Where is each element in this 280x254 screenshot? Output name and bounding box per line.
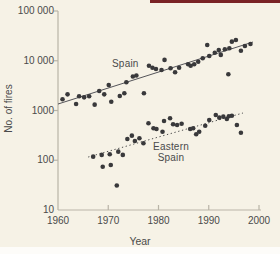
data-point-spain (118, 94, 123, 99)
data-point-spain (217, 48, 222, 53)
series-label-eastern-spain-line1: Eastern (145, 141, 197, 152)
data-point-eastern-spain (121, 153, 126, 158)
data-point-eastern-spain (197, 129, 202, 134)
trend-line-spain (58, 42, 253, 104)
y-tick-label-10: 10 (0, 204, 54, 215)
y-tick-label-100000: 100 000 (0, 5, 54, 16)
data-point-eastern-spain (168, 116, 173, 121)
data-point-eastern-spain (175, 123, 180, 128)
x-axis-title: Year (0, 235, 280, 247)
data-point-spain (97, 89, 102, 94)
y-tick-label-10000: 10 000 (0, 55, 54, 66)
data-point-eastern-spain (235, 123, 240, 128)
data-point-spain (200, 56, 205, 61)
data-point-eastern-spain (179, 121, 184, 126)
data-point-spain (109, 99, 114, 104)
x-tick-label-1990: 1990 (192, 215, 226, 226)
data-point-spain (142, 91, 147, 96)
data-point-eastern-spain (146, 121, 151, 126)
data-point-eastern-spain (171, 122, 176, 127)
data-point-eastern-spain (137, 136, 142, 141)
data-point-eastern-spain (239, 130, 244, 135)
data-point-eastern-spain (125, 137, 130, 142)
y-tick-label-1000: 1000 (0, 105, 54, 116)
x-tick-label-1960: 1960 (41, 215, 75, 226)
data-point-eastern-spain (207, 118, 212, 123)
data-point-spain (223, 47, 228, 52)
x-tick-label-1980: 1980 (142, 215, 176, 226)
data-point-spain (177, 65, 182, 70)
data-point-eastern-spain (230, 113, 235, 118)
data-point-eastern-spain (162, 119, 167, 124)
data-point-eastern-spain (108, 163, 113, 168)
data-point-eastern-spain (130, 133, 135, 138)
series-label-spain: Spain (112, 58, 139, 69)
data-point-spain (207, 54, 212, 59)
data-point-eastern-spain (107, 152, 112, 157)
x-tick-label-2000: 2000 (242, 215, 276, 226)
data-point-spain (87, 94, 92, 99)
data-point-spain (239, 48, 244, 53)
data-point-spain (162, 58, 167, 63)
data-point-spain (227, 46, 232, 51)
data-point-eastern-spain (154, 127, 159, 132)
data-point-eastern-spain (116, 149, 121, 154)
data-point-spain (243, 44, 248, 49)
data-point-spain (65, 92, 70, 97)
fires-scatter-chart: No. of fires Year Spain Eastern Spain 19… (0, 0, 280, 254)
data-point-spain (82, 95, 87, 100)
data-point-spain (77, 94, 82, 99)
data-point-spain (248, 42, 253, 47)
data-point-spain (122, 91, 127, 96)
series-label-eastern-spain-line2: Spain (145, 152, 197, 163)
data-point-spain (102, 92, 107, 97)
data-point-eastern-spain (191, 126, 196, 131)
data-point-eastern-spain (99, 153, 104, 158)
data-point-spain (196, 59, 201, 64)
y-tick-label-100: 100 (0, 154, 54, 165)
series-label-eastern-spain: Eastern Spain (145, 141, 197, 163)
data-point-spain (60, 97, 65, 102)
data-point-eastern-spain (114, 183, 119, 188)
data-point-eastern-spain (91, 154, 96, 159)
data-point-spain (154, 67, 159, 72)
data-point-spain (230, 39, 235, 44)
data-point-spain (74, 102, 79, 107)
data-point-spain (92, 102, 97, 107)
data-point-spain (134, 73, 139, 78)
data-point-spain (212, 50, 217, 55)
data-point-spain (168, 66, 173, 71)
data-point-eastern-spain (160, 129, 165, 134)
data-point-spain (219, 53, 224, 58)
data-point-spain (159, 68, 164, 73)
data-point-spain (226, 72, 231, 77)
x-tick-label-1970: 1970 (91, 215, 125, 226)
data-point-eastern-spain (133, 139, 138, 144)
data-point-spain (124, 80, 129, 85)
data-point-spain (173, 70, 178, 75)
bottom-strip (0, 247, 280, 254)
data-point-spain (106, 83, 111, 88)
page: No. of fires Year Spain Eastern Spain 19… (0, 0, 280, 254)
data-point-eastern-spain (203, 123, 208, 128)
data-point-spain (205, 43, 210, 48)
data-point-eastern-spain (100, 164, 105, 169)
data-point-spain (192, 62, 197, 67)
data-point-spain (234, 38, 239, 43)
data-point-eastern-spain (217, 115, 222, 120)
